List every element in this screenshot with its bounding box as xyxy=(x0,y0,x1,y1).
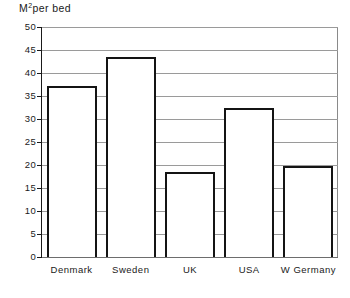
x-axis-tick-label: Denmark xyxy=(42,264,101,275)
y-axis-tick-label: 15 xyxy=(2,183,36,193)
bar-chart: M2per bed 50454035302520151050 DenmarkSw… xyxy=(0,0,350,298)
gridline xyxy=(42,257,338,258)
bar xyxy=(283,166,333,257)
y-axis-tick-label: 5 xyxy=(2,229,36,239)
y-axis-tick-label: 25 xyxy=(2,137,36,147)
y-axis-tick-mark xyxy=(37,50,42,51)
y-axis-tick-mark xyxy=(37,73,42,74)
bar xyxy=(224,108,274,258)
y-axis-tick-label: 45 xyxy=(2,45,36,55)
bar xyxy=(106,57,156,257)
x-axis-tick-label: USA xyxy=(220,264,279,275)
y-axis-title-base: M xyxy=(19,2,28,14)
plot-area xyxy=(42,27,338,257)
gridline xyxy=(42,73,338,74)
y-axis-tick-mark xyxy=(37,96,42,97)
y-axis-tick-label: 10 xyxy=(2,206,36,216)
y-axis-tick-mark xyxy=(37,165,42,166)
y-axis-tick-label: 50 xyxy=(2,22,36,32)
x-axis-tick-label: W Germany xyxy=(279,264,338,275)
y-axis-tick-mark xyxy=(37,234,42,235)
y-axis-tick-label: 0 xyxy=(2,252,36,262)
gridline xyxy=(42,27,338,28)
y-axis-tick-label: 20 xyxy=(2,160,36,170)
y-axis-tick-mark xyxy=(37,257,42,258)
y-axis-title-rest: per bed xyxy=(32,2,70,14)
x-axis-tick-label: UK xyxy=(160,264,219,275)
y-axis-tick-mark xyxy=(37,27,42,28)
y-axis-tick-mark xyxy=(37,188,42,189)
gridline xyxy=(42,50,338,51)
bar xyxy=(165,172,215,257)
y-axis-tick-mark xyxy=(37,142,42,143)
y-axis-tick-mark xyxy=(37,211,42,212)
y-axis-tick-mark xyxy=(37,119,42,120)
y-axis-tick-label: 40 xyxy=(2,68,36,78)
bar xyxy=(47,86,97,257)
y-axis-title: M2per bed xyxy=(19,2,71,14)
y-axis-tick-label: 30 xyxy=(2,114,36,124)
x-axis-tick-label: Sweden xyxy=(101,264,160,275)
y-axis-tick-label: 35 xyxy=(2,91,36,101)
